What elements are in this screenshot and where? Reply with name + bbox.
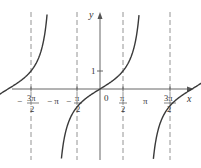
x-tick-label-neg-pi-2-sign: − [66,96,71,106]
x-tick-label-pi-2-num: π [120,93,125,103]
origin-label: 0 [104,93,109,103]
x-tick-label-3pi-2-den: 2 [167,104,171,114]
tan-branch-1 [0,15,47,158]
x-tick-label-pi: π [143,96,148,106]
x-tick-label-neg-3pi-2-den: 2 [30,104,34,114]
y-tick-label-1: 1 [91,66,96,76]
tan-curves [0,15,201,159]
x-tick-label-neg-pi-2-den: 2 [76,104,80,114]
x-tick-label-neg-3pi-2-num: 3π [27,93,36,103]
x-tick-label-neg-3pi-2-sign: − [17,96,22,106]
x-tick-label-3pi-2-num: 3π [164,93,173,103]
x-axis-label: x [186,93,192,104]
x-tick-label-pi-2-den: 2 [121,104,125,114]
x-tick-label-neg-pi-2-num: π [75,93,80,103]
tan-branch-3 [153,16,201,159]
x-tick-label-neg-pi: − π [47,96,59,106]
axes [12,12,194,160]
y-axis-label: y [88,9,94,20]
tangent-graph: y x 0 1 − 3π 2 − π − π 2 π 2 π 3π 2 [0,0,201,168]
asymptotes [31,12,170,160]
y-axis-arrow-icon [98,12,103,19]
